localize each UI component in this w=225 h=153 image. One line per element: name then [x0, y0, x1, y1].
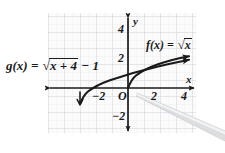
label-g-radical: √x + 4 — [42, 58, 78, 73]
y-tick-label-2: 2 — [118, 52, 124, 64]
label-g-radicand: x + 4 — [49, 58, 78, 72]
label-g-suffix: − 1 — [78, 58, 99, 73]
label-f-radicand: x — [184, 38, 192, 51]
x-tick-label-4: 4 — [181, 90, 187, 102]
y-tick-label-4: 4 — [118, 23, 124, 35]
y-axis-name: y — [133, 16, 138, 27]
x-tick-label--2: −2 — [92, 90, 105, 102]
label-f-radical: √x — [177, 38, 192, 52]
x-tick-label-2: 2 — [151, 90, 157, 102]
y-tick-label--2: −2 — [112, 110, 125, 122]
label-f-prefix: f(x) = — [146, 38, 177, 52]
graph-figure: g(x) = √x + 4 − 1 f(x) = √x y x O −2 2 4… — [0, 0, 225, 153]
function-label-g: g(x) = √x + 4 − 1 — [6, 58, 99, 73]
function-label-f: f(x) = √x — [146, 38, 192, 52]
x-axis-name: x — [186, 74, 192, 85]
origin-label: O — [118, 90, 127, 102]
label-g-prefix: g(x) = — [6, 58, 42, 73]
